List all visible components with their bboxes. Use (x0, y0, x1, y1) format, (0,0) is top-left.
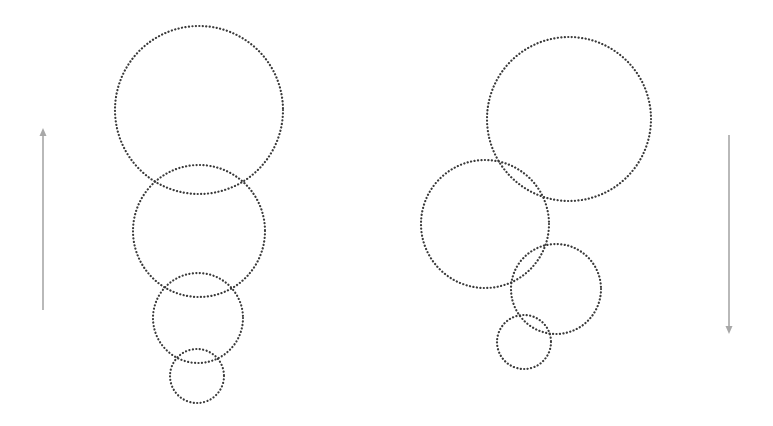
left-dotted-circle-1 (115, 26, 283, 194)
right-dotted-circle-2 (421, 160, 549, 288)
left-circle-stack (115, 26, 283, 403)
direction-arrows (40, 128, 733, 334)
right-dotted-circle-4 (497, 315, 551, 369)
right-dotted-circle-3 (511, 244, 601, 334)
arrow-up-icon (40, 128, 47, 310)
right-dotted-circle-1 (487, 37, 651, 201)
left-dotted-circle-4 (170, 349, 224, 403)
left-dotted-circle-2 (133, 165, 265, 297)
diagram-canvas (0, 0, 773, 426)
left-dotted-circle-3 (153, 273, 243, 363)
arrow-down-icon (726, 135, 733, 334)
right-circle-stack (421, 37, 651, 369)
